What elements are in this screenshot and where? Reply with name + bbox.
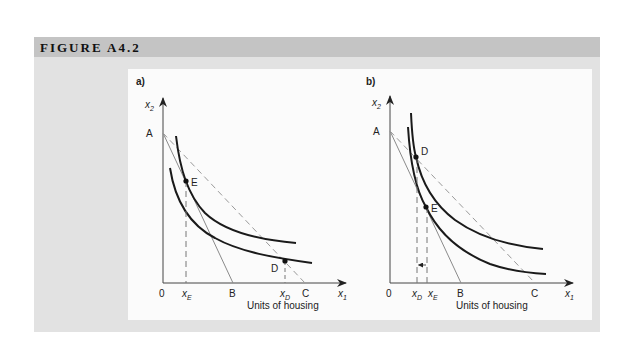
panel-b-budget-line-ac: [390, 131, 535, 283]
panel-b-indifference-curve-lower: [408, 127, 546, 274]
panel-a-x-caption: Units of housing: [247, 300, 319, 311]
panel-a-point-e: [183, 178, 188, 183]
panel-a-y-axis-label: x2: [144, 99, 154, 112]
panel-a: a) x2 x1 0 A E D xE B xD C Units of hous…: [136, 76, 347, 311]
panel-b-y-axis-label: x2: [371, 97, 381, 110]
panel-a-label: a): [136, 76, 145, 87]
panel-b-x-caption: Units of housing: [456, 300, 528, 311]
panel-a-point-d: [282, 258, 287, 263]
panel-b: b) x2 x1 0 A D E xD xE B C Units of hous…: [366, 76, 574, 311]
panel-b-origin: 0: [386, 288, 392, 299]
panel-b-tick-xe: xE: [427, 288, 438, 301]
panel-b-point-e: [423, 204, 428, 209]
panel-b-tick-c: C: [531, 288, 538, 299]
panel-b-x-axis-label: x1: [564, 288, 574, 301]
panel-b-point-a-label: A: [373, 126, 380, 137]
panel-b-point-d: [413, 154, 418, 159]
panel-b-tick-xd: xD: [411, 288, 422, 301]
panel-a-indifference-curve-upper: [176, 136, 296, 243]
diagram-canvas: a) x2 x1 0 A E D xE B xD C Units of hous…: [0, 0, 631, 346]
panel-b-tick-b: B: [457, 288, 464, 299]
panel-a-budget-line-ab: [163, 133, 233, 283]
panel-a-point-d-label: D: [271, 263, 278, 274]
panel-a-tick-b: B: [229, 288, 236, 299]
panel-a-tick-xe: xE: [181, 288, 192, 301]
panel-a-tick-c: C: [302, 288, 309, 299]
panel-a-point-a-label: A: [146, 128, 153, 139]
panel-a-point-e-label: E: [191, 177, 198, 188]
panel-b-point-e-label: E: [431, 203, 438, 214]
panel-a-x-axis-label: x1: [337, 288, 347, 301]
panel-b-indifference-curve-upper: [411, 113, 543, 249]
panel-a-origin: 0: [159, 288, 165, 299]
panel-b-label: b): [366, 76, 375, 87]
panel-b-point-d-label: D: [421, 146, 428, 157]
